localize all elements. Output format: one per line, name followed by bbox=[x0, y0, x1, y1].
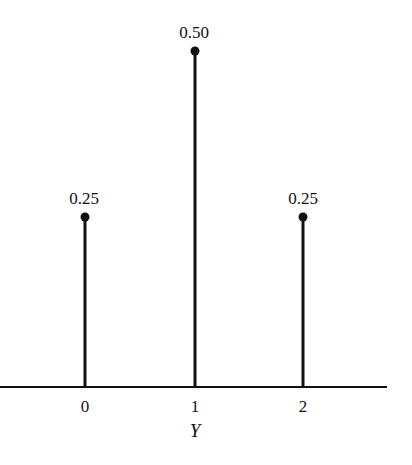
stem-dot-y2 bbox=[299, 213, 308, 222]
tick-label-0: 0 bbox=[81, 397, 90, 416]
tick-label-1: 1 bbox=[191, 397, 200, 416]
value-label-y2: 0.25 bbox=[288, 189, 318, 208]
stem-dot-y0 bbox=[81, 213, 90, 222]
probability-stem-chart: 0.25 0.50 0.25 0 1 2 Y bbox=[0, 0, 412, 465]
value-label-y1: 0.50 bbox=[179, 23, 209, 42]
x-axis-label: Y bbox=[190, 420, 203, 441]
tick-label-2: 2 bbox=[299, 397, 308, 416]
value-label-y0: 0.25 bbox=[69, 189, 99, 208]
stem-dot-y1 bbox=[191, 47, 200, 56]
